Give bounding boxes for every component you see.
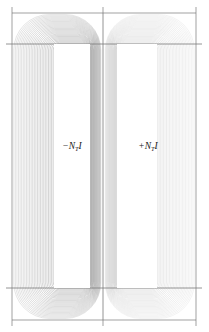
contour-plot-svg: −NTI +NTI	[0, 0, 209, 332]
flux-contour-figure: −NTI +NTI	[0, 0, 209, 332]
left-coil-current-label: −NTI	[62, 141, 82, 152]
right-coil-current-label: +NTI	[138, 141, 158, 152]
right-coil-window	[117, 44, 157, 288]
left-coil-window	[54, 44, 90, 288]
